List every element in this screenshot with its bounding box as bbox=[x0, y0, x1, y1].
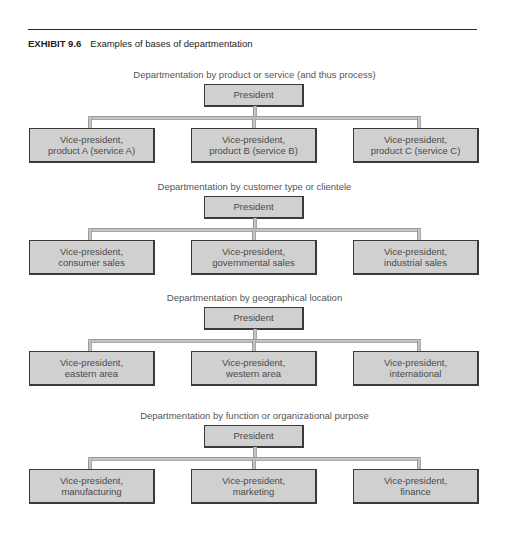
chart-subtitle: Departmentation by product or service (a… bbox=[0, 69, 509, 80]
vp-box: Vice-president,industrial sales bbox=[353, 240, 479, 275]
org-chart-geographic: Departmentation by geographical location… bbox=[0, 292, 509, 402]
president-box: President bbox=[204, 425, 304, 448]
vp-box: Vice-president,product A (service A) bbox=[29, 128, 155, 163]
vp-scope: consumer sales bbox=[58, 257, 125, 269]
vp-scope: eastern area bbox=[60, 368, 123, 380]
vp-box: Vice-president,finance bbox=[353, 469, 479, 504]
vp-box: Vice-president,product C (service C) bbox=[353, 128, 479, 163]
org-chart-customer: Departmentation by customer type or clie… bbox=[0, 181, 509, 291]
vp-box: Vice-president,western area bbox=[191, 351, 317, 386]
vp-scope: governmental sales bbox=[212, 257, 294, 269]
vp-scope: manufacturing bbox=[60, 486, 123, 498]
vp-title: Vice-president, bbox=[384, 357, 447, 369]
chart-subtitle: Departmentation by function or organizat… bbox=[0, 410, 509, 421]
vp-scope: marketing bbox=[222, 486, 285, 498]
vp-title: Vice-president, bbox=[384, 475, 447, 487]
vp-title: Vice-president, bbox=[58, 246, 125, 258]
vp-title: Vice-president, bbox=[209, 134, 298, 146]
vp-scope: industrial sales bbox=[384, 257, 447, 269]
vp-title: Vice-president, bbox=[60, 357, 123, 369]
vp-title: Vice-president, bbox=[212, 246, 294, 258]
vp-title: Vice-president, bbox=[60, 475, 123, 487]
vp-scope: international bbox=[384, 368, 447, 380]
vp-title: Vice-president, bbox=[48, 134, 135, 146]
vp-scope: product A (service A) bbox=[48, 145, 135, 157]
top-rule bbox=[28, 29, 477, 30]
vp-box: Vice-president,eastern area bbox=[29, 351, 155, 386]
org-chart-product: Departmentation by product or service (a… bbox=[0, 69, 509, 179]
president-box: President bbox=[204, 307, 304, 330]
president-box: President bbox=[204, 196, 304, 219]
vp-scope: product B (service B) bbox=[209, 145, 298, 157]
vp-box: Vice-president,governmental sales bbox=[191, 240, 317, 275]
vp-title: Vice-president, bbox=[222, 357, 285, 369]
chart-subtitle: Departmentation by geographical location bbox=[0, 292, 509, 303]
vp-box: Vice-president,international bbox=[353, 351, 479, 386]
exhibit-number: EXHIBIT 9.6 bbox=[28, 38, 81, 49]
org-chart-function: Departmentation by function or organizat… bbox=[0, 410, 509, 520]
vp-box: Vice-president,consumer sales bbox=[29, 240, 155, 275]
vp-scope: western area bbox=[222, 368, 285, 380]
exhibit-caption: EXHIBIT 9.6Examples of bases of departme… bbox=[28, 38, 252, 49]
exhibit-title: Examples of bases of departmentation bbox=[90, 38, 252, 49]
vp-box: Vice-president,manufacturing bbox=[29, 469, 155, 504]
vp-title: Vice-president, bbox=[384, 246, 447, 258]
chart-subtitle: Departmentation by customer type or clie… bbox=[0, 181, 509, 192]
vp-scope: product C (service C) bbox=[371, 145, 461, 157]
vp-title: Vice-president, bbox=[222, 475, 285, 487]
vp-box: Vice-president,marketing bbox=[191, 469, 317, 504]
vp-scope: finance bbox=[384, 486, 447, 498]
vp-box: Vice-president,product B (service B) bbox=[191, 128, 317, 163]
vp-title: Vice-president, bbox=[371, 134, 461, 146]
president-box: President bbox=[204, 84, 304, 107]
